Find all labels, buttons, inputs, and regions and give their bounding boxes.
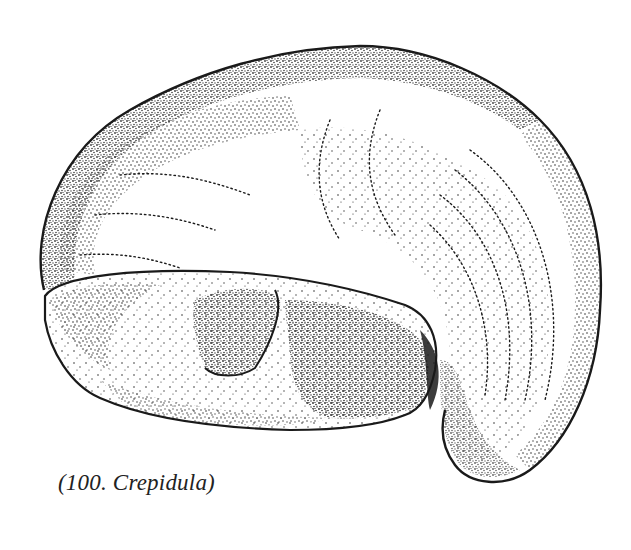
shell-aperture <box>45 271 439 430</box>
figure-caption: (100. Crepidula) <box>58 470 215 496</box>
crepidula-shell-illustration <box>0 0 631 550</box>
